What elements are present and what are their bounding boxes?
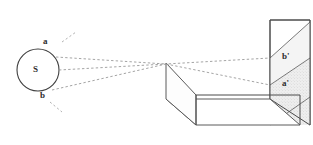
ray-a-to-a-prime [56, 57, 270, 85]
ray-stub-b [50, 102, 62, 112]
figure-root: S a b b' a' [0, 0, 313, 145]
ray-diagram-svg [0, 0, 313, 145]
near-panel [166, 63, 196, 125]
label-image-a-prime: a' [282, 79, 289, 88]
label-image-b-prime: b' [282, 52, 290, 61]
ray-b-to-b-prime [52, 58, 270, 90]
label-source-s: S [33, 65, 38, 74]
label-object-a: a [43, 37, 48, 46]
ray-stub-a [62, 32, 76, 42]
ray-axis [59, 64, 166, 70]
label-object-b: b [40, 91, 45, 100]
near-panel-group [166, 63, 196, 125]
